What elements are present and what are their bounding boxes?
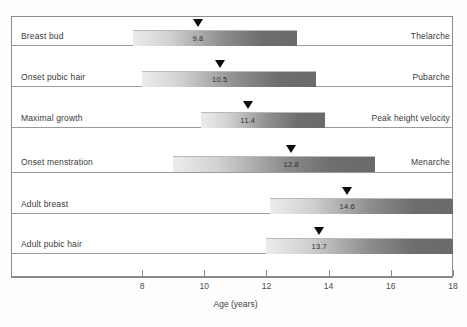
x-axis-tick: [142, 270, 143, 276]
mean-age-marker: [215, 60, 225, 68]
x-axis-tick-label: 18: [448, 281, 457, 291]
annotation-label-menarche: Menarche: [411, 157, 450, 167]
range-bar: [173, 156, 375, 172]
category-label-adult-breast: Adult breast: [21, 199, 68, 209]
category-label-onset-menstration: Onset menstration: [21, 157, 93, 167]
x-axis-tick: [204, 270, 205, 276]
category-label-onset-pubic-hair: Onset pubic hair: [21, 72, 85, 82]
range-bar: [133, 30, 298, 46]
range-bar: [270, 198, 453, 214]
x-axis-tick-label: 8: [140, 281, 145, 291]
range-bar: [201, 112, 325, 128]
range-bar: [266, 238, 453, 254]
x-axis-tick-label: 14: [324, 281, 333, 291]
mean-age-value: 14.6: [340, 202, 355, 211]
annotation-label-thelarche: Thelarche: [411, 31, 450, 41]
x-axis-title: Age (years): [0, 299, 467, 309]
x-axis-tick: [329, 270, 330, 276]
x-axis-tick: [453, 270, 454, 276]
mean-age-value: 9.8: [192, 34, 203, 43]
x-axis-tick: [266, 270, 267, 276]
x-axis-line: [12, 276, 452, 277]
x-axis-tick-label: 12: [262, 281, 271, 291]
mean-age-value: 10.5: [212, 75, 227, 84]
mean-age-marker: [193, 19, 203, 27]
x-axis-tick: [391, 270, 392, 276]
mean-age-value: 13.7: [312, 242, 327, 251]
category-label-adult-pubic-hair: Adult pubic hair: [21, 239, 82, 249]
annotation-label-peak-height-velocity: Peak height velocity: [371, 113, 450, 123]
mean-age-value: 11.4: [240, 116, 255, 125]
chart-page: Breast bud Onset pubic hair Maximal grow…: [0, 0, 467, 327]
range-bar: [142, 71, 316, 87]
mean-age-marker: [243, 101, 253, 109]
annotation-label-pubarche: Pubarche: [412, 72, 450, 82]
x-axis-title-text: Age (years): [214, 299, 258, 309]
mean-age-marker: [286, 145, 296, 153]
x-axis-tick-label: 10: [199, 281, 208, 291]
category-label-breast-bud: Breast bud: [21, 31, 64, 41]
mean-age-marker: [342, 187, 352, 195]
category-label-maximal-growth: Maximal growth: [21, 113, 83, 123]
mean-age-value: 12.8: [284, 160, 299, 169]
mean-age-marker: [314, 227, 324, 235]
row-separator: [12, 172, 452, 173]
x-axis-tick-label: 16: [386, 281, 395, 291]
